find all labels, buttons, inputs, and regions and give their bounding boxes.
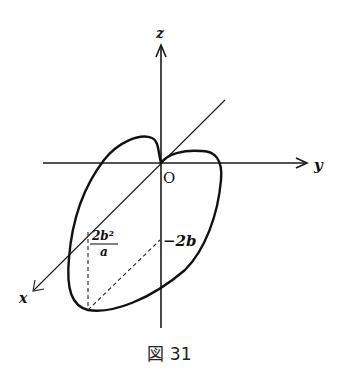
dashed-diagonal xyxy=(88,240,160,310)
y-axis-label: y xyxy=(313,156,324,174)
x-axis-label: x xyxy=(18,290,28,306)
figure-caption: 図 31 xyxy=(0,340,339,365)
fraction-denominator: a xyxy=(100,245,108,259)
z-marker-label: −2b xyxy=(163,232,197,250)
x-axis xyxy=(34,100,225,290)
origin-label: O xyxy=(163,169,175,187)
z-axis-label: z xyxy=(155,25,165,41)
fraction-numerator: 2b² xyxy=(91,229,114,243)
figure-diagram: y z x O 2b² a −2b xyxy=(0,0,339,389)
